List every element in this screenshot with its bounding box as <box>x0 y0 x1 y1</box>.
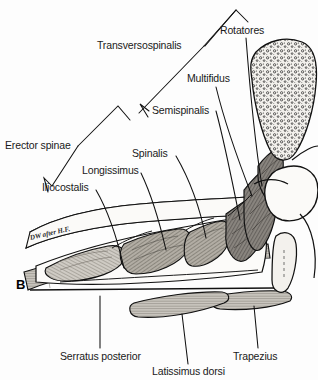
label-transversospinalis: Transversospinalis <box>97 40 181 51</box>
leader-latissimus-dorsi <box>182 314 188 364</box>
label-longissimus: Longissimus <box>82 165 139 176</box>
label-spinalis: Spinalis <box>132 148 168 159</box>
label-rotatores: Rotatores <box>220 25 264 36</box>
label-trapezius: Trapezius <box>233 351 277 362</box>
label-serratus-posterior: Serratus posterior <box>60 351 141 362</box>
label-erector-spinae: Erector spinae <box>5 140 71 151</box>
label-iliocostalis: Iliocostalis <box>42 182 89 193</box>
thoracolumbar-fascia <box>30 288 274 290</box>
vertebral-body <box>265 166 318 221</box>
panel-letter-b: B <box>16 277 25 292</box>
label-latissimus-dorsi: Latissimus dorsi <box>152 366 225 377</box>
label-multifidus: Multifidus <box>187 73 230 84</box>
latissimus-dorsi-muscle <box>130 292 229 318</box>
leader-trapezius <box>254 306 258 348</box>
label-semispinalis: Semispinalis <box>152 105 209 116</box>
leader-erector-spinae <box>78 106 130 146</box>
leader-multifidus <box>216 87 252 196</box>
spinous-process-bone <box>251 39 317 160</box>
anatomy-figure: Transversospinalis Rotatores Multifidus … <box>0 0 318 380</box>
